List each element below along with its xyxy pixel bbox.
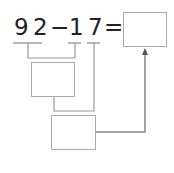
- step2-box[interactable]: [52, 116, 96, 150]
- arrow-up-icon: [142, 48, 148, 55]
- bracket-92-1: [28, 43, 75, 58]
- diagram-lines: [0, 0, 174, 173]
- answer-box[interactable]: [124, 13, 167, 47]
- step1-box[interactable]: [32, 63, 75, 97]
- connector-step2-to-answer: [96, 52, 145, 132]
